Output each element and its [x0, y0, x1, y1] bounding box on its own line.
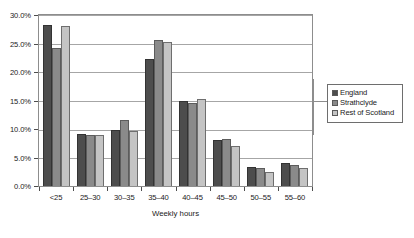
- x-tick-label: 30–35: [114, 193, 135, 202]
- x-tick-mark: [107, 187, 108, 191]
- x-tick-label: 50–55: [251, 193, 272, 202]
- legend-item: Strathclyde: [332, 98, 399, 108]
- bar: [77, 134, 86, 186]
- bar: [120, 120, 129, 186]
- legend-label: England: [340, 88, 367, 98]
- y-tick-label: 20.0%: [10, 68, 31, 77]
- y-tick-label: 30.0%: [10, 11, 31, 20]
- bar-group: [73, 15, 107, 186]
- y-axis: 0.0%5.0%10.0%15.0%20.0%25.0%30.0%: [0, 0, 38, 238]
- x-tick-mark: [312, 187, 313, 191]
- x-tick-mark: [210, 187, 211, 191]
- y-tick-label: 0.0%: [14, 182, 31, 191]
- x-tick-mark: [141, 187, 142, 191]
- y-tick-mark: [34, 129, 38, 130]
- y-tick-label: 15.0%: [10, 96, 31, 105]
- bar-group: [278, 15, 312, 186]
- bar-group: [141, 15, 175, 186]
- y-tick-mark: [34, 72, 38, 73]
- x-tick-mark: [73, 187, 74, 191]
- bar: [222, 139, 231, 186]
- y-tick-label: 5.0%: [14, 153, 31, 162]
- y-tick-mark: [34, 186, 38, 187]
- y-tick-mark: [34, 15, 38, 16]
- bar: [111, 130, 120, 186]
- bar-group: [176, 15, 210, 186]
- bar: [61, 26, 70, 186]
- bar: [231, 146, 240, 186]
- bar: [188, 103, 197, 186]
- x-tick-label: 35–40: [148, 193, 169, 202]
- bars-layer: [39, 15, 312, 186]
- legend-swatch-icon: [332, 90, 338, 96]
- bar: [197, 99, 206, 186]
- x-tick-mark: [244, 187, 245, 191]
- bar: [163, 42, 172, 186]
- bar: [247, 167, 256, 186]
- legend-label: Strathclyde: [340, 98, 377, 108]
- x-tick-label: 45–50: [216, 193, 237, 202]
- legend-connector-vertical: [313, 79, 314, 135]
- bar-group: [107, 15, 141, 186]
- x-tick-label: 25–30: [80, 193, 101, 202]
- y-tick-label: 10.0%: [10, 125, 31, 134]
- bar-group: [244, 15, 278, 186]
- bar: [213, 140, 222, 186]
- bar: [129, 131, 138, 186]
- legend: EnglandStrathclydeRest of Scotland: [327, 84, 403, 123]
- x-tick-label: <25: [50, 193, 63, 202]
- bar: [86, 135, 95, 186]
- x-tick-mark: [39, 187, 40, 191]
- x-tick-mark: [278, 187, 279, 191]
- bar: [299, 168, 308, 186]
- x-tick-label: 55–60: [285, 193, 306, 202]
- bar-chart: 0.0%5.0%10.0%15.0%20.0%25.0%30.0% <2525–…: [0, 0, 414, 238]
- bar-group: [39, 15, 73, 186]
- x-tick-label: 40–45: [182, 193, 203, 202]
- y-tick-mark: [34, 158, 38, 159]
- y-tick-label: 25.0%: [10, 39, 31, 48]
- bar-group: [210, 15, 244, 186]
- x-axis-title: Weekly hours: [38, 209, 313, 218]
- legend-swatch-icon: [332, 100, 338, 106]
- bar: [265, 172, 274, 186]
- bar: [179, 101, 188, 186]
- x-tick-mark: [176, 187, 177, 191]
- bar: [52, 48, 61, 186]
- y-tick-mark: [34, 44, 38, 45]
- bar: [154, 40, 163, 186]
- legend-item: Rest of Scotland: [332, 108, 399, 118]
- bar: [145, 59, 154, 186]
- bar: [256, 168, 265, 186]
- legend-connector-horizontal: [313, 101, 328, 102]
- legend-swatch-icon: [332, 110, 338, 116]
- y-tick-mark: [34, 101, 38, 102]
- bar: [281, 163, 290, 186]
- bar: [95, 135, 104, 186]
- bar: [290, 165, 299, 186]
- legend-label: Rest of Scotland: [340, 108, 394, 118]
- legend-item: England: [332, 88, 399, 98]
- bar: [43, 25, 52, 186]
